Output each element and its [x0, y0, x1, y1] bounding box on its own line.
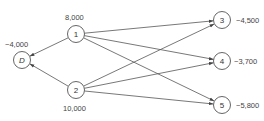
node-1: 1 — [68, 26, 85, 43]
node-3: 3 — [214, 12, 231, 29]
node-4: 4 — [214, 53, 231, 70]
node-2-value: 10,000 — [63, 104, 86, 113]
node-D: D — [14, 52, 31, 69]
node-3-label: 3 — [220, 16, 225, 25]
edge-2-to-D — [30, 64, 69, 87]
node-1-value: 8,000 — [65, 13, 84, 22]
edge-2-to-5 — [85, 91, 214, 104]
node-D-value: −4,000 — [5, 40, 28, 49]
node-5-value: −5,800 — [236, 101, 259, 110]
node-2: 2 — [68, 82, 85, 99]
node-4-label: 4 — [220, 57, 225, 66]
node-2-label: 2 — [74, 86, 79, 95]
edge-2-to-4 — [84, 63, 213, 89]
node-3-value: −4,500 — [236, 16, 259, 25]
edges — [30, 21, 215, 104]
node-1-label: 1 — [74, 30, 79, 39]
node-D-label: D — [19, 56, 25, 65]
node-5-label: 5 — [220, 101, 225, 110]
edge-1-to-D — [30, 38, 69, 57]
node-4-value: −3,700 — [234, 57, 257, 66]
node-5: 5 — [214, 97, 231, 114]
network-diagram: D −4,000 1 8,000 2 10,000 3 −4,500 4 −3,… — [0, 0, 264, 121]
edge-2-to-3 — [84, 24, 215, 86]
edge-1-to-3 — [85, 21, 214, 33]
